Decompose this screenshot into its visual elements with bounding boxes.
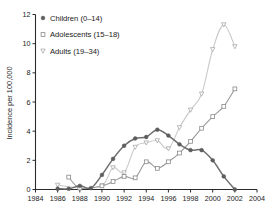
data-point-marker: [144, 160, 148, 164]
data-point-marker: [67, 187, 71, 191]
legend-item-1: Adolescents (15–18): [41, 30, 120, 39]
data-point-marker: [200, 126, 204, 130]
y-axis-title: Incidence per 100,000: [5, 66, 14, 139]
series-1: [67, 87, 237, 190]
data-point-marker: [233, 45, 237, 49]
data-point-marker: [233, 188, 237, 192]
y-tick-label: 12: [23, 10, 31, 19]
data-point-marker: [222, 104, 226, 108]
data-point-marker: [56, 187, 60, 191]
x-tick-label: 1990: [94, 194, 110, 203]
x-tick-label: 1998: [183, 194, 199, 203]
y-tick-label: 0: [27, 185, 31, 194]
data-point-marker: [199, 92, 203, 96]
data-point-marker: [122, 174, 126, 178]
legend-marker-open-triangle-down: [41, 49, 45, 53]
data-point-marker: [166, 147, 170, 151]
x-tick-label: 2004: [249, 194, 265, 203]
data-point-marker: [100, 184, 104, 188]
data-point-marker: [222, 174, 226, 178]
legend-item-2: Adults (19–34): [41, 47, 100, 56]
data-point-marker: [189, 139, 193, 143]
data-point-marker: [155, 128, 159, 132]
legend-label: Adults (19–34): [50, 47, 100, 56]
data-point-marker: [211, 48, 215, 52]
x-tick-label: 1994: [138, 194, 154, 203]
data-point-marker: [178, 151, 182, 155]
data-point-marker: [167, 134, 171, 138]
y-tick-label: 2: [27, 156, 31, 165]
data-point-marker: [144, 135, 148, 139]
data-point-marker: [67, 175, 71, 179]
data-point-marker: [111, 157, 115, 161]
y-tick-label: 10: [23, 39, 31, 48]
legend-marker-open-square: [41, 33, 45, 37]
data-point-marker: [189, 148, 193, 152]
legend-label: Children (0–14): [50, 14, 103, 23]
x-tick-label: 1986: [50, 194, 66, 203]
data-point-marker: [100, 173, 104, 177]
data-point-marker: [155, 166, 159, 170]
y-axis-ticks: 024681012: [23, 10, 36, 194]
data-point-marker: [111, 180, 115, 184]
legend-label: Adolescents (15–18): [50, 30, 120, 39]
data-point-marker: [133, 176, 137, 180]
y-tick-label: 8: [27, 68, 31, 77]
data-point-marker: [78, 184, 82, 188]
legend-marker-filled-circle: [41, 16, 45, 20]
data-point-marker: [144, 141, 148, 145]
series-line: [69, 89, 235, 189]
chart-figure: 024681012 198419861988199019921994199619…: [0, 0, 265, 211]
data-point-marker: [122, 144, 126, 148]
x-tick-label: 1988: [72, 194, 88, 203]
chart-legend: Children (0–14)Adolescents (15–18)Adults…: [41, 14, 120, 56]
data-point-marker: [200, 148, 204, 152]
data-point-marker: [178, 142, 182, 146]
data-point-marker: [89, 186, 93, 190]
data-point-marker: [133, 137, 137, 141]
y-tick-label: 6: [27, 98, 31, 107]
data-point-marker: [211, 158, 215, 162]
data-point-marker: [211, 115, 215, 119]
y-tick-label: 4: [27, 127, 31, 136]
incidence-line-chart: 024681012 198419861988199019921994199619…: [0, 0, 265, 211]
x-tick-label: 2000: [205, 194, 221, 203]
data-point-marker: [233, 87, 237, 91]
data-point-marker: [177, 126, 181, 130]
x-tick-label: 2002: [227, 194, 243, 203]
x-axis-ticks: 1984198619881990199219941996199820002002…: [28, 190, 266, 204]
legend-item-0: Children (0–14): [41, 14, 103, 23]
x-tick-label: 1992: [116, 194, 132, 203]
data-point-marker: [167, 160, 171, 164]
x-tick-label: 1996: [160, 194, 176, 203]
x-tick-label: 1984: [28, 194, 44, 203]
